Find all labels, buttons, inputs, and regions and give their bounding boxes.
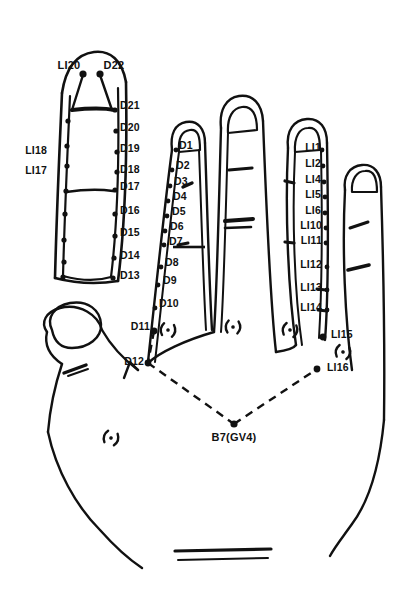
arrow-mark-li11: [285, 242, 294, 243]
middle-finger-outline: [214, 96, 276, 352]
label-d18: D18: [120, 164, 140, 175]
hand-thumb-outline: [44, 307, 138, 432]
label-b7-gv4: B7(GV4): [212, 432, 257, 443]
label-d16: D16: [120, 205, 140, 216]
wrist-crease-lines: [175, 549, 271, 560]
label-d6: D6: [170, 221, 184, 232]
label-d3: D3: [174, 176, 188, 187]
label-d20: D20: [120, 122, 140, 133]
label-li2: LI2: [305, 158, 321, 169]
label-d8: D8: [165, 257, 179, 268]
pinky-finger-outline: [344, 165, 384, 420]
label-li10: LI10: [300, 220, 322, 231]
label-d7: D7: [169, 236, 183, 247]
hand-acupuncture-diagram: LI20 D22 LI18 LI17 D21 D20 D19 D18 D17 D…: [0, 0, 402, 598]
hand-thumb-nail: [50, 302, 101, 348]
label-d1: D1: [179, 140, 193, 151]
label-d19: D19: [120, 143, 140, 154]
thumb-phalanx-lines: [66, 109, 115, 193]
dashed-meridian-lines: [148, 331, 317, 424]
pinky-finger-creases: [348, 222, 369, 270]
label-d11: D11: [131, 321, 150, 332]
pinky-fingernail: [352, 171, 377, 192]
hand-thumb-crease: [64, 365, 88, 376]
label-li1: LI1: [305, 142, 321, 153]
thumb-tip-converging-lines: [72, 75, 112, 110]
hand-line-drawing: [0, 0, 402, 598]
label-d21: D21: [120, 100, 140, 111]
palm-reflex-marks: [102, 320, 351, 446]
label-d14: D14: [120, 250, 140, 261]
arrow-mark-li4: [285, 181, 294, 183]
label-li18: LI18: [25, 145, 47, 156]
label-d22: D22: [104, 60, 125, 71]
label-li12: LI12: [300, 259, 322, 270]
label-li4: LI4: [305, 174, 321, 185]
label-li14: LI14: [300, 302, 322, 313]
label-d4: D4: [173, 191, 187, 202]
label-li20: LI20: [58, 60, 81, 71]
label-li5: LI5: [305, 189, 321, 200]
point-b7-gv4-dot: [230, 420, 237, 427]
label-d13: D13: [120, 270, 140, 281]
thumb-inner-contour: [63, 88, 118, 280]
point-li20-dot: [79, 70, 86, 77]
label-li16: LI16: [327, 362, 349, 373]
label-li6: LI6: [305, 205, 321, 216]
label-d10: D10: [159, 298, 179, 309]
label-d17: D17: [120, 181, 140, 192]
middle-finger-inner-contour: [221, 133, 228, 332]
label-li15: LI15: [331, 329, 353, 340]
label-d12: D12: [124, 356, 144, 367]
middle-fingernail: [228, 107, 257, 133]
label-li11: LI11: [301, 235, 322, 246]
label-li13: LI13: [300, 282, 322, 293]
label-d5: D5: [172, 206, 186, 217]
label-d2: D2: [176, 160, 190, 171]
middle-finger-creases: [225, 168, 253, 228]
label-d15: D15: [120, 227, 140, 238]
label-d9: D9: [163, 275, 177, 286]
label-li17: LI17: [25, 165, 47, 176]
point-d22-dot: [96, 70, 103, 77]
